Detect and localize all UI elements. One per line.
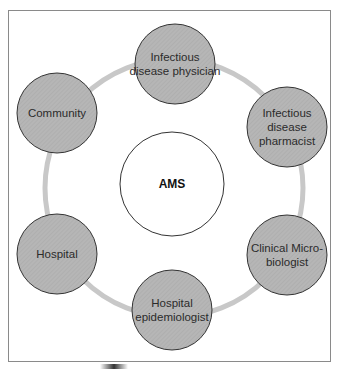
node-label-infectious-disease-physician: Infectious disease physician bbox=[130, 50, 221, 78]
node-label-community: Community bbox=[28, 106, 86, 120]
node-label-hospital-epidemiologist: Hospital epidemiologist bbox=[135, 296, 209, 324]
bottom-edge-shadow bbox=[100, 364, 128, 369]
node-label-hospital: Hospital bbox=[36, 247, 78, 261]
node-label-infectious-disease-pharmacist: Infectious disease pharmacist bbox=[259, 106, 315, 148]
node-label-clinical-microbiologist: Clinical Micro- biologist bbox=[251, 241, 323, 269]
center-label-ams: AMS bbox=[159, 177, 186, 191]
